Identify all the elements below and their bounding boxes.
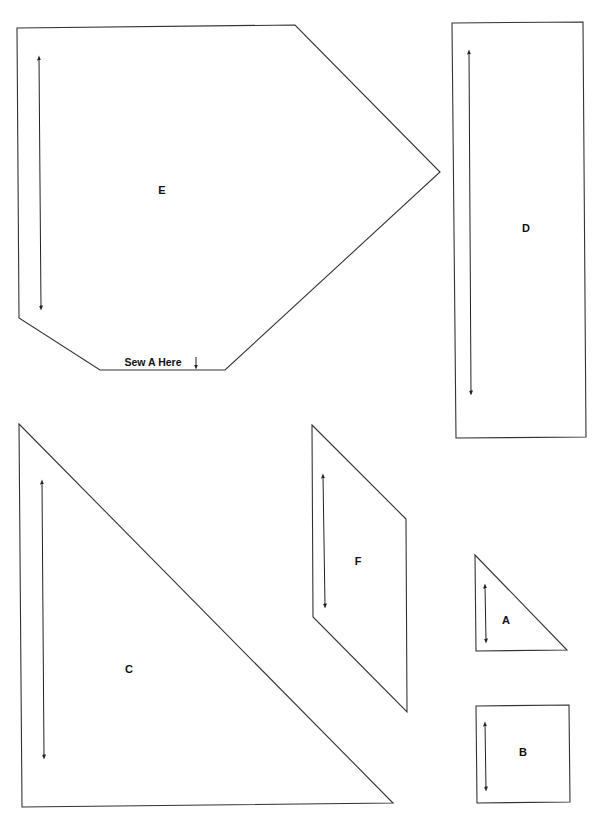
piece-d-label: D xyxy=(522,222,530,234)
piece-d xyxy=(452,22,586,438)
piece-a-label: A xyxy=(502,614,510,626)
piece-a xyxy=(475,555,567,651)
piece-e-label: E xyxy=(158,184,165,196)
piece-b-label: B xyxy=(519,746,527,758)
piece-f xyxy=(312,425,407,712)
sew-here-note: Sew A Here xyxy=(125,356,182,368)
piece-f-label: F xyxy=(355,555,362,567)
pattern-sheet xyxy=(0,0,600,821)
piece-e xyxy=(17,25,440,370)
piece-c-label: C xyxy=(125,663,133,675)
